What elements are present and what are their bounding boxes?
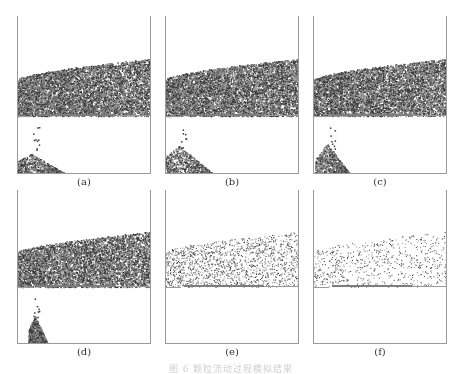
panel-frame bbox=[165, 16, 299, 174]
panel-label-f: (f) bbox=[350, 346, 410, 357]
panel-label-b: (b) bbox=[202, 176, 262, 187]
panel-frame bbox=[165, 190, 299, 344]
panel-label-e: (e) bbox=[202, 346, 262, 357]
panel-frame bbox=[17, 16, 151, 174]
panel-a bbox=[17, 16, 151, 174]
figure-caption: 图 6 颗粒流动过程模拟结果 bbox=[0, 362, 462, 374]
panel-frame bbox=[17, 190, 151, 344]
panel-frame bbox=[313, 190, 447, 344]
panel-d bbox=[17, 190, 151, 344]
panel-e bbox=[165, 190, 299, 344]
panel-label-a: (a) bbox=[54, 176, 114, 187]
panel-c bbox=[313, 16, 447, 174]
panel-frame bbox=[313, 16, 447, 174]
panel-label-c: (c) bbox=[350, 176, 410, 187]
panel-b bbox=[165, 16, 299, 174]
panel-f bbox=[313, 190, 447, 344]
panel-label-d: (d) bbox=[54, 346, 114, 357]
